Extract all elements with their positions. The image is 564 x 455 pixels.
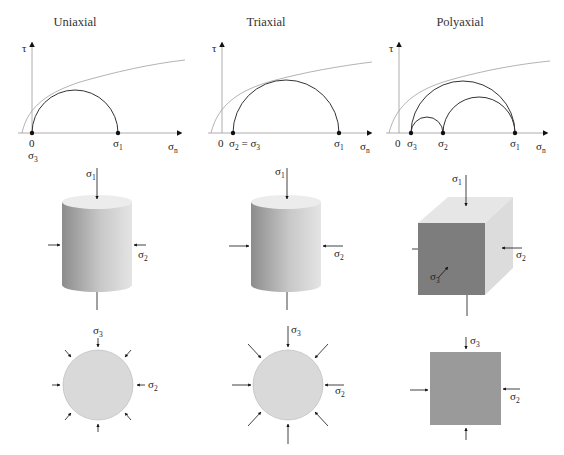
sigma2-label: σ2 <box>148 378 158 393</box>
cylinder-body <box>62 202 132 292</box>
tau-label: τ <box>389 42 394 54</box>
point-sigma2 <box>441 131 445 135</box>
mohr-diagram-polyaxial: τ 0 σ3 σ2 σ1 σn <box>386 42 550 155</box>
square <box>430 352 501 425</box>
sigma-n-label: σn <box>536 140 546 155</box>
sigma1-label: σ1 <box>510 137 520 152</box>
tau-label: τ <box>212 42 217 54</box>
sigma1-label: σ1 <box>275 165 285 180</box>
cross-section-square-polyaxial: σ3 σ2 <box>410 334 520 440</box>
arrow-lower-right <box>125 413 131 420</box>
sigma3-label: σ3 <box>407 137 417 152</box>
column-title-polyaxial: Polyaxial <box>436 15 484 29</box>
failure-envelope <box>389 61 550 133</box>
arrow-upper-left <box>65 350 71 357</box>
sigma1-label: σ1 <box>86 167 96 182</box>
sigma-n-label: σn <box>360 140 370 155</box>
mohr-diagram-uniaxial: τ 0 σ3 σ1 σn <box>18 42 185 164</box>
cylinder-top <box>251 195 321 209</box>
sigma2-equals-sigma3-label: σ2 = σ3 <box>229 137 260 152</box>
sigma-n-label: σn <box>168 140 178 155</box>
arrow-upper-left <box>248 344 261 358</box>
sigma3-label: σ3 <box>28 149 38 164</box>
sigma2-label: σ2 <box>516 248 526 263</box>
point-sigma2-sigma3 <box>231 131 235 135</box>
sigma2-label: σ2 <box>510 390 520 405</box>
arrow-lower-left <box>248 412 261 426</box>
sigma2-label: σ2 <box>334 247 344 262</box>
origin-label: 0 <box>218 137 224 149</box>
point-sigma1 <box>116 131 120 135</box>
sigma2-label: σ2 <box>138 248 148 263</box>
arrow-lower-left <box>65 413 71 420</box>
mohr-circle-medium <box>443 97 515 133</box>
mohr-circle-small <box>411 117 443 133</box>
specimen-cube-polyaxial: σ1 σ2 σ3 <box>412 172 526 316</box>
cube-front-face <box>418 223 485 295</box>
mohr-diagram-triaxial: τ 0 σ2 = σ3 σ1 σn <box>208 42 372 155</box>
origin-label: 0 <box>395 137 401 149</box>
mohr-circle <box>233 80 339 133</box>
specimen-cylinder-triaxial: σ1 σ2 <box>229 165 344 310</box>
sigma1-label: σ1 <box>334 137 344 152</box>
column-title-uniaxial: Uniaxial <box>53 15 97 29</box>
arrow-upper-right <box>125 350 131 357</box>
cross-section-circle-triaxial: σ3 σ2 <box>232 323 345 444</box>
column-title-triaxial: Triaxial <box>246 15 286 29</box>
point-sigma3 <box>409 131 413 135</box>
cylinder-body <box>251 202 321 292</box>
mohr-circle <box>32 90 118 133</box>
failure-envelope <box>211 62 372 133</box>
sigma1-label: σ1 <box>113 137 123 152</box>
sigma3-label: σ3 <box>93 324 103 339</box>
origin-label: 0 <box>29 137 35 149</box>
stress-states-figure: Uniaxial Triaxial Polyaxial τ 0 σ3 σ1 σn… <box>0 0 564 455</box>
sigma3-label: σ3 <box>291 323 301 338</box>
disc <box>63 350 133 420</box>
sigma2-label: σ2 <box>438 137 448 152</box>
sigma3-label: σ3 <box>470 334 480 349</box>
sigma2-label: σ2 <box>335 384 345 399</box>
point-sigma1 <box>337 131 341 135</box>
point-sigma1 <box>513 131 517 135</box>
arrow-upper-right <box>315 344 328 358</box>
point-sigma3 <box>30 131 34 135</box>
specimen-cylinder-uniaxial: σ1 σ2 <box>48 167 148 310</box>
tau-label: τ <box>22 42 27 54</box>
failure-envelope <box>22 60 185 133</box>
disc <box>253 350 323 420</box>
arrow-lower-right <box>315 412 328 426</box>
cross-section-circle-uniaxial: σ3 σ2 <box>52 324 158 432</box>
sigma1-label: σ1 <box>452 172 462 187</box>
